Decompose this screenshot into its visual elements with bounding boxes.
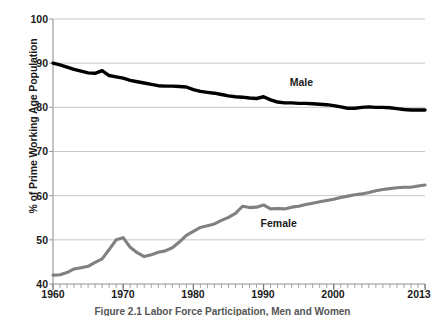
plot-canvas: [0, 0, 445, 316]
grid-lines: [53, 19, 425, 284]
data-series-group: [53, 63, 425, 275]
series-label-male: Male: [290, 76, 313, 88]
chart-figure: % of Prime Working Age Population 100 90…: [0, 0, 445, 316]
figure-caption: Figure 2.1 Labor Force Participation, Me…: [0, 306, 445, 316]
series-label-female: Female: [261, 217, 297, 229]
major-tick-marks: [49, 19, 425, 290]
